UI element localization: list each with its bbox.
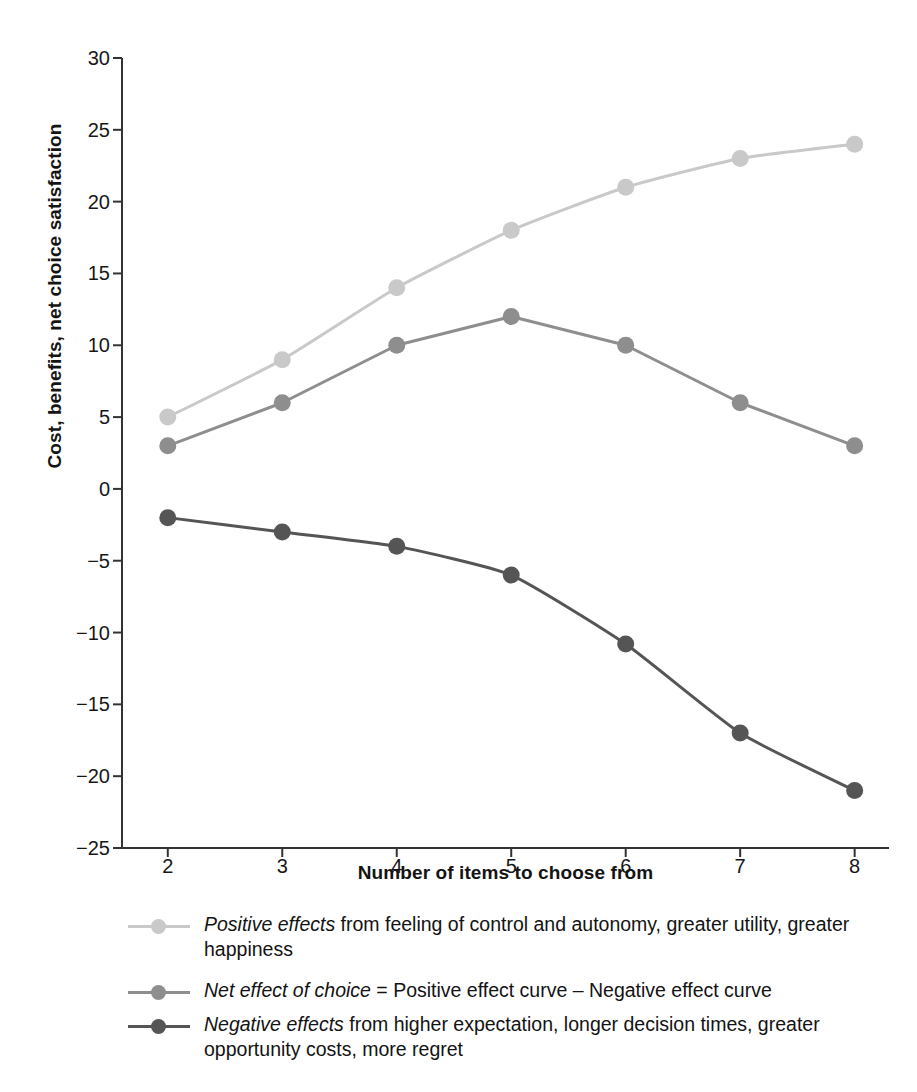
series-3 [159,509,863,799]
legend-marker-icon [128,1015,190,1037]
legend-marker-icon [128,915,190,937]
series-2 [159,308,863,454]
data-point [503,222,520,239]
data-point [274,524,291,541]
axis-lines [122,58,889,848]
data-series-group [159,136,863,799]
data-point [503,308,520,325]
data-point [388,337,405,354]
legend-label-rest: = Positive effect curve – Negative effec… [371,979,772,1001]
y-tick-label: 30 [50,47,110,70]
y-tick-label: −25 [50,837,110,860]
data-point [274,394,291,411]
legend-label-emphasis: Positive effects [204,913,335,935]
chart-legend: Positive effects from feeling of control… [0,900,917,1085]
data-point [159,437,176,454]
data-point [846,136,863,153]
data-point [503,567,520,584]
data-point [732,725,749,742]
legend-label: Positive effects from feeling of control… [190,912,898,962]
data-point [617,179,634,196]
legend-item[interactable]: Positive effects from feeling of control… [128,912,898,962]
data-point [732,394,749,411]
legend-marker-icon [128,981,190,1003]
y-axis-title: Cost, benefits, net choice satisfaction [44,81,66,511]
chart-figure: 302520151050−5−10−15−20−25 2345678 Cost,… [0,0,917,1092]
y-tick-label: −15 [50,693,110,716]
data-point [388,538,405,555]
data-point [274,351,291,368]
data-point [159,409,176,426]
legend-label: Net effect of choice = Positive effect c… [190,978,898,1003]
legend-label: Negative effects from higher expectation… [190,1012,898,1062]
y-tick-label: −20 [50,765,110,788]
data-point [846,782,863,799]
data-point [617,636,634,653]
legend-label-emphasis: Net effect of choice [204,979,371,1001]
data-point [388,279,405,296]
data-point [732,150,749,167]
legend-item[interactable]: Negative effects from higher expectation… [128,1012,898,1062]
data-point [846,437,863,454]
legend-label-emphasis: Negative effects [204,1013,344,1035]
chart-svg [0,0,917,880]
data-point [159,509,176,526]
x-axis-title: Number of items to choose from [122,862,889,884]
y-tick-marks [113,58,122,848]
y-tick-label: −5 [50,549,110,572]
y-tick-label: −10 [50,621,110,644]
legend-item[interactable]: Net effect of choice = Positive effect c… [128,978,898,1003]
data-point [617,337,634,354]
series-1 [159,136,863,426]
plot-area: 302520151050−5−10−15−20−25 2345678 Cost,… [0,0,917,880]
